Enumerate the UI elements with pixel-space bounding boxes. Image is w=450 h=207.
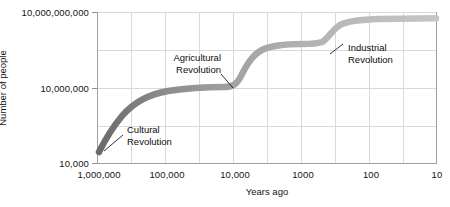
y-tick-marks [92, 13, 97, 164]
x-tick-label-100: 100 [363, 169, 379, 180]
annotation-cultural-line2: Revolution [127, 136, 172, 148]
y-tick-label-10000000: 10,000,000 [0, 83, 89, 94]
x-tick-label-10: 10 [432, 169, 443, 180]
annotation-industrial-line2: Revolution [348, 54, 393, 66]
annotation-industrial-revolution: Industrial Revolution [348, 42, 393, 65]
y-axis-title: Number of people [0, 38, 8, 138]
annotation-industrial-line1: Industrial [348, 42, 393, 54]
annotation-cultural-line1: Cultural [127, 124, 172, 136]
annotation-agricultural-revolution: Agricultural Revolution [173, 52, 221, 75]
population-growth-chart: 10,000,000,000 10,000,000 10,000 1,000,0… [0, 0, 450, 207]
x-tick-label-10000: 10,000 [220, 169, 250, 180]
x-tick-label-1000000: 1,000,000 [77, 169, 120, 180]
annotation-cultural-revolution: Cultural Revolution [127, 124, 172, 147]
x-axis-title: Years ago [246, 186, 288, 197]
x-tick-label-100000: 100,000 [149, 169, 184, 180]
annotation-agricultural-line1: Agricultural [173, 52, 221, 64]
y-tick-label-10000: 10,000 [0, 158, 89, 169]
x-tick-label-1000: 1000 [292, 169, 314, 180]
annotation-agricultural-line2: Revolution [173, 64, 221, 76]
y-tick-label-10000000000: 10,000,000,000 [0, 7, 89, 18]
